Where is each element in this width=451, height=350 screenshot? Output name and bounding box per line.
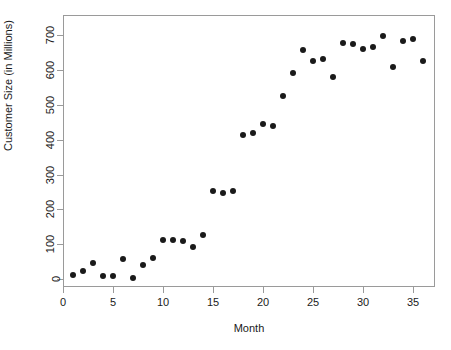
y-tick-mark <box>57 70 63 71</box>
data-point <box>110 273 116 279</box>
x-tick-mark <box>63 287 64 293</box>
data-point <box>250 130 256 136</box>
x-tick-mark <box>313 287 314 293</box>
scatter-chart: 0100200300400500600700 05101520253035 Cu… <box>0 0 451 350</box>
data-point <box>350 41 356 47</box>
data-point <box>120 256 126 262</box>
data-point <box>240 132 246 138</box>
data-point <box>360 46 366 52</box>
x-tick-label: 5 <box>110 296 116 308</box>
x-tick-label: 15 <box>207 296 219 308</box>
data-point <box>180 238 186 244</box>
data-point <box>390 64 396 70</box>
y-tick-mark <box>57 140 63 141</box>
data-point <box>210 188 216 194</box>
data-point <box>170 237 176 243</box>
x-tick-label: 20 <box>257 296 269 308</box>
x-axis-title: Month <box>234 322 265 334</box>
y-tick-label: 200 <box>44 200 55 218</box>
data-point <box>260 121 266 127</box>
x-tick-label: 0 <box>60 296 66 308</box>
x-tick-mark <box>213 287 214 293</box>
data-point <box>400 38 406 44</box>
x-tick-label: 35 <box>407 296 419 308</box>
data-point <box>70 272 76 278</box>
data-point <box>100 273 106 279</box>
y-tick-mark <box>57 175 63 176</box>
data-point <box>190 244 196 250</box>
data-point <box>160 237 166 243</box>
data-point <box>280 93 286 99</box>
data-point <box>340 40 346 46</box>
data-point <box>150 255 156 261</box>
data-point <box>220 190 226 196</box>
x-tick-mark <box>163 287 164 293</box>
data-point <box>420 58 426 64</box>
x-tick-label: 30 <box>357 296 369 308</box>
x-tick-label: 10 <box>157 296 169 308</box>
y-tick-mark <box>57 209 63 210</box>
data-point <box>320 56 326 62</box>
data-point <box>410 36 416 42</box>
data-point <box>270 123 276 129</box>
y-tick-label: 0 <box>50 276 61 282</box>
data-point <box>380 33 386 39</box>
y-tick-label: 400 <box>44 130 55 148</box>
data-point <box>290 70 296 76</box>
x-tick-mark <box>113 287 114 293</box>
y-tick-label: 700 <box>44 26 55 44</box>
data-point <box>300 47 306 53</box>
y-axis-title: Customer Size (in Millions) <box>2 20 14 151</box>
data-point <box>140 262 146 268</box>
data-point <box>200 232 206 238</box>
x-tick-mark <box>263 287 264 293</box>
y-tick-label: 300 <box>44 165 55 183</box>
y-tick-mark <box>57 244 63 245</box>
x-tick-mark <box>363 287 364 293</box>
y-tick-label: 100 <box>44 235 55 253</box>
y-tick-label: 500 <box>44 96 55 114</box>
data-point <box>80 268 86 274</box>
data-point <box>130 275 136 281</box>
x-tick-label: 25 <box>307 296 319 308</box>
x-tick-mark <box>413 287 414 293</box>
y-tick-label: 600 <box>44 61 55 79</box>
plot-area: 0100200300400500600700 05101520253035 <box>63 15 435 287</box>
data-point <box>330 74 336 80</box>
data-point <box>90 260 96 266</box>
data-point <box>310 58 316 64</box>
data-point <box>230 188 236 194</box>
y-tick-mark <box>57 105 63 106</box>
data-point <box>370 44 376 50</box>
y-tick-mark <box>57 35 63 36</box>
